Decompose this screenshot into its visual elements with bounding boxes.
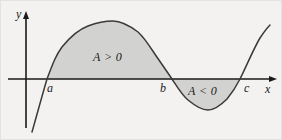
y-axis-arrowhead <box>23 11 29 19</box>
x-axis-arrowhead <box>269 76 277 82</box>
figure-canvas: y x a b c A > 0 A < 0 <box>0 0 282 140</box>
area-label-negative: A < 0 <box>188 85 217 97</box>
point-label-c: c <box>244 82 249 94</box>
point-label-a: a <box>47 82 53 94</box>
graph-plot <box>0 0 282 140</box>
area-label-positive: A > 0 <box>93 51 122 63</box>
y-axis-label: y <box>16 8 21 20</box>
point-label-b: b <box>160 82 166 94</box>
x-axis-label: x <box>265 83 270 95</box>
